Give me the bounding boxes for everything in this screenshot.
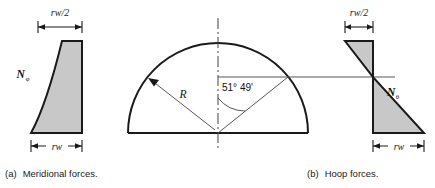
dome-angle-label: 51° 49' [222,82,253,93]
panel-a-caption-text: Meridional forces. [23,168,98,179]
panel-a-bottom-dimension: rw [31,139,82,153]
panel-a-force-subscript: φ [25,75,29,83]
panel-a-top-dimension: rw/2 [38,7,82,33]
panel-b-hoop: rw/2 Nθ rw (b)Hoop forces. [307,7,424,179]
panel-b-caption-text: Hoop forces. [325,168,379,179]
panel-b-lower-triangle [373,77,424,133]
figure-svg: rw/2 Nφ rw (a)Meridional forces. [0,0,435,188]
dome-radius-dimension: R [148,78,215,130]
panel-a-force-label: Nφ [16,68,30,83]
dome-angle-arc [218,98,245,111]
panel-a-force-symbol: N [16,68,26,80]
panel-b-force-subscript: θ [396,93,400,101]
panel-b-force-symbol: N [386,86,396,98]
panel-b-caption-index: (b) [307,168,319,179]
panel-a-bottom-dimension-label: rw [52,141,63,152]
panel-b-bottom-dimension: rw [373,139,424,153]
panel-b-top-dimension-label: rw/2 [350,7,368,18]
dome-geometry: R 51° 49' [128,18,395,148]
panel-b-bottom-dimension-label: rw [394,141,405,152]
panel-a-meridional: rw/2 Nφ rw (a)Meridional forces. [5,7,98,179]
panel-a-stress-block [31,41,82,133]
panel-a-caption: (a)Meridional forces. [5,168,98,179]
panel-b-upper-triangle [345,41,373,77]
dome-radius-label: R [178,88,186,100]
panel-b-top-dimension: rw/2 [345,7,373,33]
panel-a-caption-index: (a) [5,168,17,179]
shell-force-figure: rw/2 Nφ rw (a)Meridional forces. [0,0,435,188]
panel-a-top-dimension-label: rw/2 [51,7,69,18]
panel-b-caption: (b)Hoop forces. [307,168,379,179]
